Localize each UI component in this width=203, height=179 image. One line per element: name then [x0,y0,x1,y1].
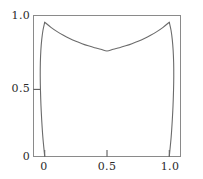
xtick-label-right: 1.0 [150,160,190,173]
chart-figure: 1.0 0.5 0 0 0.5 1.0 [0,0,203,179]
frame-rect [34,16,181,157]
plot-area [0,0,203,179]
xtick-label-middle: 0.5 [87,160,127,173]
ytick-label-top: 1.0 [0,9,30,22]
ytick-label-middle: 0.5 [0,82,30,95]
xtick-label-left: 0 [24,160,64,173]
axis-frame [34,16,181,157]
